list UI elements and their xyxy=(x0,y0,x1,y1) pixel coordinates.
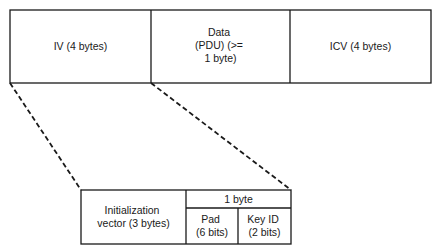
init-vector-line-1: Initialization xyxy=(105,204,160,216)
byte-header-label: 1 byte xyxy=(224,193,253,205)
wep-frame-diagram: IV (4 bytes) Data (PDU) (>= 1 byte) ICV … xyxy=(0,0,439,252)
key-id-label: Key ID (2 bits) xyxy=(247,213,281,238)
field-data-line-2: (PDU) (>= xyxy=(195,39,243,51)
expansion-line-right xyxy=(151,83,291,190)
key-id-line-1: Key ID xyxy=(247,213,279,225)
key-id-line-2: (2 bits) xyxy=(248,226,280,238)
pad-line-1: Pad xyxy=(201,213,220,225)
field-iv-line: IV (4 bytes) xyxy=(54,40,108,52)
field-data-line-1: Data xyxy=(208,26,230,38)
pad-line-2: (6 bits) xyxy=(196,226,228,238)
field-iv: IV (4 bytes) xyxy=(54,40,108,52)
field-data-line-3: 1 byte) xyxy=(204,52,236,64)
field-data: Data (PDU) (>= 1 byte) xyxy=(195,26,246,64)
field-icv: ICV (4 bytes) xyxy=(330,40,391,52)
pad-label: Pad (6 bits) xyxy=(196,213,228,238)
init-vector-label: Initialization vector (3 bytes) xyxy=(97,204,169,229)
expansion-line-left xyxy=(10,83,81,190)
expansion-lines xyxy=(10,83,291,190)
field-icv-line: ICV (4 bytes) xyxy=(330,40,391,52)
init-vector-line-2: vector (3 bytes) xyxy=(97,217,169,229)
